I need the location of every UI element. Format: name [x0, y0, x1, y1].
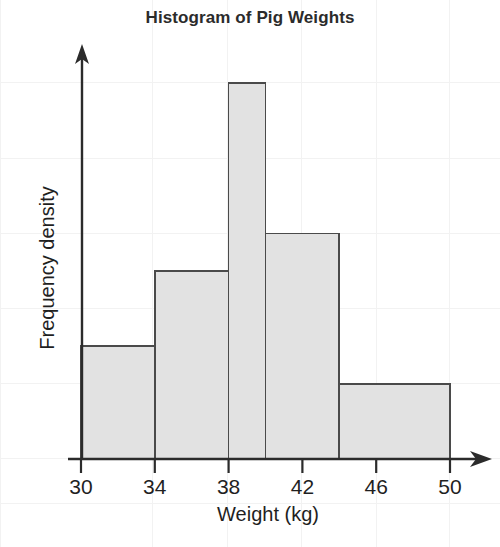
x-axis-title: Weight (kg) — [217, 503, 319, 525]
y-axis-title: Frequency density — [36, 186, 58, 349]
histogram-bar — [339, 384, 450, 459]
x-axis-tick-label: 50 — [438, 475, 461, 498]
x-axis-tick-label: 30 — [69, 475, 92, 498]
x-axis-tick-label: 38 — [217, 475, 240, 498]
x-axis-tick-label: 34 — [143, 475, 167, 498]
histogram-bar — [229, 83, 266, 459]
plot-area: 303438424650 Weight (kg) Frequency densi… — [0, 0, 500, 547]
x-axis-ticks — [81, 459, 450, 473]
x-axis-tick-label: 42 — [291, 475, 314, 498]
x-axis-tick-label: 46 — [365, 475, 388, 498]
histogram-bar — [266, 233, 340, 459]
bars-group — [81, 83, 450, 459]
histogram-figure: Histogram of Pig Weights 303438424650 We… — [0, 0, 500, 547]
histogram-bar — [155, 271, 229, 459]
x-axis-tick-labels: 303438424650 — [69, 475, 461, 498]
histogram-bar — [81, 346, 155, 459]
